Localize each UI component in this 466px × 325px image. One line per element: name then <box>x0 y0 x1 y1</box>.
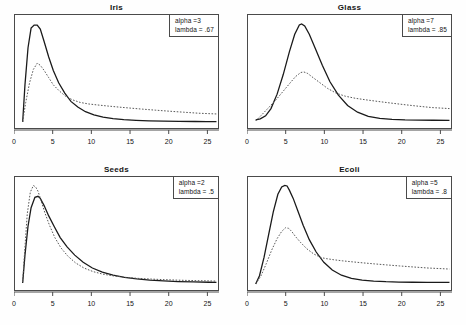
curve-solid <box>256 185 450 284</box>
curve-solid <box>256 24 450 120</box>
x-axis: 0510152025 <box>14 129 219 159</box>
x-tick-label: 20 <box>165 299 173 308</box>
x-tick-label: 5 <box>51 137 55 146</box>
curve-dotted <box>256 72 450 121</box>
panel-title: Ecoli <box>233 164 466 175</box>
x-tick-label: 0 <box>245 299 249 308</box>
legend-lambda: lambda = .67 <box>175 26 214 35</box>
panel-title: Seeds <box>0 164 233 175</box>
x-tick-label: 20 <box>398 137 406 146</box>
panel-seeds: Seeds alpha =2 lambda = .5 0510152025 <box>0 162 233 324</box>
figure-panel-grid: Iris alpha =3 lambda = .67 0510152025 Gl… <box>0 0 466 325</box>
panel-title: Glass <box>233 2 466 13</box>
legend-box: alpha =7 lambda = .85 <box>402 14 452 37</box>
x-tick-label: 5 <box>284 137 288 146</box>
legend-box: alpha =5 lambda = .8 <box>406 176 452 199</box>
legend-lambda: lambda = .5 <box>179 188 214 197</box>
x-tick-label: 10 <box>87 299 95 308</box>
legend-box: alpha =3 lambda = .67 <box>169 14 219 37</box>
x-tick-label: 0 <box>12 137 16 146</box>
x-tick-label: 5 <box>284 299 288 308</box>
x-tick-label: 15 <box>359 299 367 308</box>
x-tick-label: 0 <box>12 299 16 308</box>
x-tick-label: 25 <box>436 137 444 146</box>
legend-alpha: alpha =2 <box>179 179 214 188</box>
x-tick-label: 5 <box>51 299 55 308</box>
axis-ticks-svg <box>247 291 452 299</box>
x-tick-label: 15 <box>126 299 134 308</box>
x-axis: 0510152025 <box>247 129 452 159</box>
x-tick-label: 10 <box>320 137 328 146</box>
plot-area: alpha =2 lambda = .5 <box>14 176 219 291</box>
legend-alpha: alpha =3 <box>175 17 214 26</box>
curve-dotted <box>23 185 217 281</box>
plot-area: alpha =5 lambda = .8 <box>247 176 452 291</box>
legend-alpha: alpha =7 <box>408 17 447 26</box>
x-tick-label: 15 <box>359 137 367 146</box>
panel-glass: Glass alpha =7 lambda = .85 0510152025 <box>233 0 466 162</box>
plot-area: alpha =7 lambda = .85 <box>247 14 452 129</box>
legend-box: alpha =2 lambda = .5 <box>173 176 219 199</box>
curve-dotted <box>256 228 450 284</box>
curve-solid <box>23 196 217 283</box>
curve-dotted <box>23 63 217 122</box>
legend-lambda: lambda = .85 <box>408 26 447 35</box>
panel-title: Iris <box>0 2 233 13</box>
x-tick-label: 10 <box>87 137 95 146</box>
axis-ticks-svg <box>247 129 452 137</box>
x-tick-label: 25 <box>436 299 444 308</box>
x-tick-label: 25 <box>203 137 211 146</box>
x-tick-label: 15 <box>126 137 134 146</box>
x-axis: 0510152025 <box>247 291 452 321</box>
plot-area: alpha =3 lambda = .67 <box>14 14 219 129</box>
x-tick-label: 25 <box>203 299 211 308</box>
axis-ticks-svg <box>14 291 219 299</box>
axis-ticks-svg <box>14 129 219 137</box>
x-tick-label: 20 <box>398 299 406 308</box>
panel-ecoli: Ecoli alpha =5 lambda = .8 0510152025 <box>233 162 466 324</box>
curve-solid <box>23 25 217 122</box>
panel-iris: Iris alpha =3 lambda = .67 0510152025 <box>0 0 233 162</box>
x-tick-label: 20 <box>165 137 173 146</box>
x-tick-label: 0 <box>245 137 249 146</box>
legend-alpha: alpha =5 <box>412 179 447 188</box>
x-tick-label: 10 <box>320 299 328 308</box>
x-axis: 0510152025 <box>14 291 219 321</box>
legend-lambda: lambda = .8 <box>412 188 447 197</box>
